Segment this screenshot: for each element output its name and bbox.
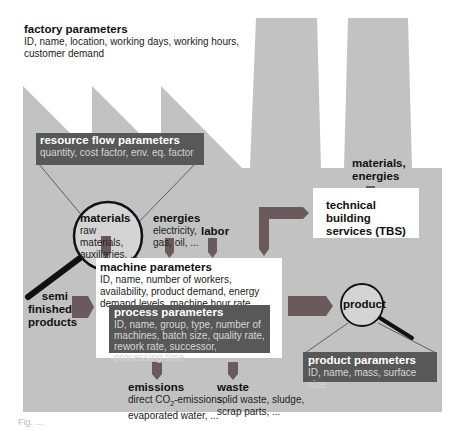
semi-line1: semi (28, 290, 68, 303)
semi-line3: products (28, 316, 68, 329)
energies-title: energies (153, 212, 200, 225)
product-parameters-box: product parameters ID, name, mass, surfa… (303, 352, 437, 382)
emissions-title: emissions (128, 381, 225, 394)
waste-output: waste solid waste, sludge, scrap parts, … (217, 381, 304, 418)
tbs-inputs: materials, energies (352, 157, 406, 183)
process-title: process parameters (114, 306, 265, 319)
emissions-output: emissions direct CO2-emissions, evaporat… (128, 381, 225, 422)
energies-line1: electricity, (153, 225, 200, 237)
semi-finished-products: semi finished products (28, 290, 68, 329)
process-parameters-box: process parameters ID, name, group, type… (109, 305, 270, 353)
factory-parameters: factory parameters ID, name, location, w… (24, 23, 254, 60)
energies-input: energies electricity, gas, oil, ... (153, 212, 200, 249)
product-params-title: product parameters (308, 354, 432, 367)
product-label: product (343, 298, 386, 311)
labor-input: labor (201, 225, 229, 238)
resource-flow-parameters-box: resource flow parameters quantity, cost … (36, 133, 204, 165)
emissions-line1: direct CO2-emissions, (128, 394, 225, 410)
tbs-line1: technical building (326, 199, 419, 225)
machine-title: machine parameters (100, 261, 278, 274)
tbs-inputs-line2: energies (352, 170, 406, 183)
figure-caption: Fig. ... (18, 417, 43, 427)
materials-title: materials (80, 212, 140, 225)
materials-input: materials raw materials, auxiliaries, ..… (80, 212, 140, 261)
tbs-inputs-line1: materials, (352, 157, 406, 170)
tbs-box: technical building services (TBS) (313, 188, 419, 238)
tbs-line2: services (TBS) (326, 225, 419, 238)
emissions-line2: evaporated water, ... (128, 410, 225, 422)
resource-flow-title: resource flow parameters (40, 134, 200, 147)
process-details: ID, name, group, type, number of machine… (114, 319, 265, 363)
waste-title: waste (217, 381, 304, 394)
emissions-co2-text: direct CO (128, 394, 170, 405)
semi-line2: finished (28, 303, 68, 316)
factory-parameters-details: ID, name, location, working days, workin… (24, 36, 254, 60)
factory-parameters-title: factory parameters (24, 23, 254, 36)
materials-line1: raw materials, (80, 225, 140, 249)
energies-line2: gas, oil, ... (153, 237, 200, 249)
resource-flow-details: quantity, cost factor, env. eq. factor (40, 147, 200, 159)
arrow-to-product (288, 296, 333, 316)
product-params-details: ID, name, mass, surface size (308, 367, 432, 391)
waste-line1: solid waste, sludge, (217, 394, 304, 406)
waste-line2: scrap parts, ... (217, 406, 304, 418)
